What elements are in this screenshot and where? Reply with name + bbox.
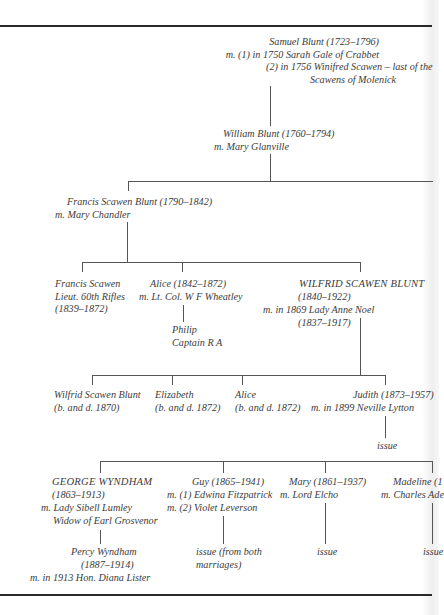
elizabeth-name: Elizabeth — [155, 389, 220, 402]
percy-name: Percy Wyndham — [71, 546, 137, 559]
wilfrid-jr-name: Wilfrid Scawen Blunt — [54, 389, 141, 402]
george-marriage: m. Lady Sibell Lumley — [41, 502, 132, 515]
wilfrid-name: WILFRID SCAWEN BLUNT — [299, 278, 424, 291]
judith-marriage: m. in 1899 Neville Lytton — [311, 402, 414, 415]
william-name: William Blunt (1760–1794) — [223, 128, 335, 141]
connector-to-francis-jr — [82, 262, 83, 272]
george-dates: (1863–1913) — [52, 489, 105, 502]
connector-to-elizabeth — [172, 375, 173, 385]
mary-name: Mary (1861–1937) — [289, 476, 366, 489]
person-samuel-blunt: Samuel Blunt (1723–1796) m. (1) in 1750 … — [119, 36, 379, 61]
connector-george-percy — [100, 530, 101, 544]
madeline-marriage: m. Charles Ade — [381, 489, 444, 502]
guy-name: Guy (1865–1941) — [192, 476, 264, 489]
francis-sr-name: Francis Scawen Blunt (1790–1842) — [67, 196, 212, 209]
connector-to-wilfrid-jr — [92, 375, 93, 385]
alice-sr-name: Alice (1842–1872) — [150, 278, 226, 291]
guy-marriage-2: m. (2) Violet Leverson — [167, 502, 257, 515]
connector-francis-sr-children — [82, 262, 361, 263]
philip-rank: Captain R A — [172, 337, 222, 350]
guy-issue-line-2: marriages) — [196, 559, 262, 572]
guy-issue: issue (from both marriages) — [196, 546, 262, 571]
william-marriage: m. Mary Glanville — [214, 141, 289, 154]
connector-judith-issue — [385, 416, 386, 438]
top-rule — [0, 25, 432, 27]
connector-to-judith — [385, 375, 386, 385]
madeline-issue: issue — [423, 546, 443, 559]
samuel-marriage-1: m. (1) in 1750 Sarah Gale of Crabbet — [119, 49, 379, 62]
alice-sr-marriage: m. Lt. Col. W F Wheatley — [139, 291, 243, 304]
alice-jr-name: Alice — [235, 389, 300, 402]
wilfrid-wife-dates: (1837–1917) — [298, 317, 351, 330]
guy-issue-line-1: issue (from both — [196, 546, 262, 559]
connector-to-guy — [223, 461, 224, 473]
connector-wilfrid-children — [92, 375, 386, 376]
samuel-marriage-2: (2) in 1756 Winifred Scawen – last of th… — [266, 61, 433, 74]
madeline-name: Madeline (1 — [393, 476, 443, 489]
person-francis-jr: Francis Scawen Lieut. 60th Rifles (1839–… — [55, 278, 125, 316]
person-elizabeth: Elizabeth (b. and d. 1872) — [155, 389, 220, 414]
connector-to-mary — [325, 461, 326, 473]
mary-marriage: m. Lord Elcho — [280, 489, 338, 502]
mary-issue: issue — [317, 546, 337, 559]
connector-madeline-issue — [432, 503, 433, 544]
alice-jr-dates: (b. and d. 1872) — [235, 402, 300, 415]
wilfrid-jr-dates: (b. and d. 1870) — [54, 402, 141, 415]
connector-to-george — [100, 461, 101, 473]
connector-william-down — [270, 154, 271, 181]
connector-guy-issue — [223, 516, 224, 544]
connector-to-francis-sr — [128, 181, 129, 191]
philip-name: Philip — [172, 324, 222, 337]
wilfrid-marriage: m. in 1869 Lady Anne Noel — [263, 304, 374, 317]
connector-to-alice-jr — [242, 375, 243, 385]
judith-issue: issue — [377, 440, 397, 453]
connector-to-madeline — [432, 461, 433, 473]
person-alice-jr: Alice (b. and d. 1872) — [235, 389, 300, 414]
percy-dates: (1887–1914) — [81, 559, 134, 572]
bottom-rule — [0, 594, 432, 596]
samuel-name: Samuel Blunt (1723–1796) — [119, 36, 379, 49]
percy-marriage: m. in 1913 Hon. Diana Lister — [30, 572, 150, 585]
connector-william-children — [128, 181, 433, 182]
wilfrid-dates: (1840–1922) — [298, 291, 351, 304]
connector-generation-6 — [100, 461, 433, 462]
judith-name: Judith (1873–1957) — [353, 389, 434, 402]
francis-jr-name: Francis Scawen — [55, 278, 125, 291]
connector-alice-philip — [183, 305, 184, 322]
guy-marriage-1: m. (1) Edwina Fitzpatrick — [167, 489, 272, 502]
elizabeth-dates: (b. and d. 1872) — [155, 402, 220, 415]
samuel-marriage-2-cont: Scawens of Molenick — [310, 74, 396, 87]
george-wife-note: Widow of Earl Grosvenor — [53, 515, 158, 528]
person-wilfrid-jr: Wilfrid Scawen Blunt (b. and d. 1870) — [54, 389, 141, 414]
connector-mary-issue — [325, 503, 326, 544]
connector-samuel-william — [270, 86, 271, 126]
george-name: GEORGE WYNDHAM — [52, 476, 152, 489]
francis-jr-dates: (1839–1872) — [55, 303, 125, 316]
francis-sr-marriage: m. Mary Chandler — [55, 209, 131, 222]
person-philip: Philip Captain R A — [172, 324, 222, 349]
connector-wilfrid-down — [360, 318, 361, 375]
francis-jr-rank: Lieut. 60th Rifles — [55, 291, 125, 304]
connector-to-wilfrid — [360, 262, 361, 272]
connector-to-alice-sr — [182, 262, 183, 272]
connector-francis-sr-down — [127, 222, 128, 262]
